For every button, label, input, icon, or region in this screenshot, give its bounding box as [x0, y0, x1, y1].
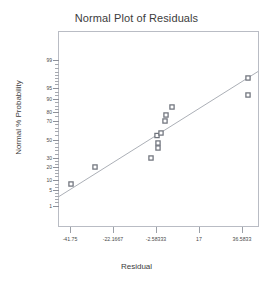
y-axis-tick-label: 5	[36, 187, 52, 193]
y-axis-minor-tick	[55, 193, 59, 194]
y-axis-tick-mark	[53, 99, 59, 100]
y-axis-tick-mark	[53, 140, 59, 141]
x-axis-title: Residual	[0, 262, 273, 271]
y-axis-minor-tick	[55, 75, 59, 76]
x-axis-tick-label: 36.5833	[222, 236, 262, 242]
y-axis-title: Normal % Probability	[14, 58, 23, 178]
y-axis-minor-tick	[55, 128, 59, 129]
y-axis-minor-tick	[55, 196, 59, 197]
y-axis-tick-mark	[53, 121, 59, 122]
y-axis-minor-tick	[55, 184, 59, 185]
y-axis-tick-label: 50	[36, 137, 52, 143]
y-axis-tick-mark	[53, 190, 59, 191]
y-axis-minor-tick	[55, 154, 59, 155]
data-point-marker	[170, 105, 174, 109]
y-axis-minor-tick	[55, 78, 59, 79]
y-axis-minor-tick	[55, 143, 59, 144]
y-axis-minor-tick	[55, 173, 59, 174]
y-axis-tick-mark	[53, 60, 59, 61]
data-point-markers	[69, 76, 250, 186]
data-point-marker	[164, 113, 168, 117]
y-axis-minor-tick	[55, 95, 59, 96]
y-axis-minor-tick	[55, 64, 59, 65]
y-axis-minor-tick	[55, 164, 59, 165]
data-point-marker	[246, 76, 250, 80]
y-axis-minor-tick	[55, 109, 59, 110]
plot-canvas	[58, 31, 259, 227]
y-axis-minor-tick	[55, 124, 59, 125]
y-axis-tick-label: 99	[36, 57, 52, 63]
y-axis-minor-tick	[55, 176, 59, 177]
y-axis-minor-tick	[55, 199, 59, 200]
x-axis-tick-label: -2.58333	[136, 236, 176, 242]
x-axis-tick-mark	[242, 227, 243, 233]
x-axis-tick-label: 17	[179, 236, 219, 242]
y-axis-tick-mark	[53, 206, 59, 207]
y-axis-minor-tick	[55, 170, 59, 171]
y-axis-tick-mark	[53, 88, 59, 89]
y-axis-minor-tick	[55, 81, 59, 82]
y-axis-tick-mark	[53, 112, 59, 113]
x-axis-tick-mark	[113, 227, 114, 233]
y-axis-minor-tick	[55, 102, 59, 103]
data-point-marker	[163, 119, 167, 123]
y-axis-tick-label: 90	[36, 96, 52, 102]
x-axis-tick-mark	[156, 227, 157, 233]
y-axis-minor-tick	[55, 84, 59, 85]
y-axis-tick-label: 20	[36, 164, 52, 170]
y-axis-minor-tick	[55, 92, 59, 93]
y-axis-tick-label: 80	[36, 109, 52, 115]
data-point-marker	[93, 165, 97, 169]
y-axis-minor-tick	[55, 68, 59, 69]
chart-title: Normal Plot of Residuals	[0, 12, 273, 24]
y-axis-tick-label: 70	[36, 118, 52, 124]
y-axis-minor-tick	[55, 131, 59, 132]
data-point-marker	[149, 156, 153, 160]
y-axis-minor-tick	[55, 135, 59, 136]
y-axis-minor-tick	[55, 106, 59, 107]
y-axis-minor-tick	[55, 116, 59, 117]
data-point-marker	[156, 146, 160, 150]
x-axis-tick-label: -22.1667	[93, 236, 133, 242]
normal-probability-plot-figure: Normal Plot of Residuals 999590807050302…	[0, 0, 273, 287]
y-axis-tick-mark	[53, 167, 59, 168]
x-axis-tick-label: -41.75	[50, 236, 90, 242]
y-axis-minor-tick	[55, 147, 59, 148]
y-axis-tick-label: 95	[36, 85, 52, 91]
data-point-marker	[156, 141, 160, 145]
x-axis-tick-mark	[199, 227, 200, 233]
data-point-marker	[246, 93, 250, 97]
x-axis-tick-mark	[70, 227, 71, 233]
y-axis-minor-tick	[55, 150, 59, 151]
y-axis-tick-label: 30	[36, 155, 52, 161]
y-axis-minor-tick	[55, 161, 59, 162]
y-axis-tick-label: 1	[36, 203, 52, 209]
y-axis-tick-mark	[53, 158, 59, 159]
y-axis-minor-tick	[55, 202, 59, 203]
y-axis-tick-mark	[53, 180, 59, 181]
y-axis-minor-tick	[55, 72, 59, 73]
y-axis-minor-tick	[55, 187, 59, 188]
data-point-marker	[69, 182, 73, 186]
data-point-marker	[159, 131, 163, 135]
y-axis-tick-label: 10	[36, 177, 52, 183]
